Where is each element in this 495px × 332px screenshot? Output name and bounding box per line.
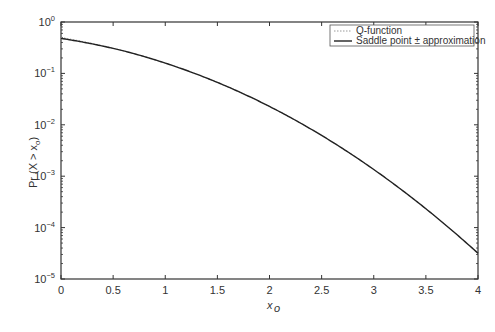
x-axis-label: x o <box>266 299 280 314</box>
x-tick-label: 2 <box>266 284 272 296</box>
legend-saddle-point-label: Saddle point ± approximation <box>356 35 485 46</box>
y-tick-label: 10−4 <box>34 220 55 234</box>
data-series <box>61 37 478 253</box>
x-axis-label-sub: o <box>274 302 280 314</box>
y-axis-ticks: 10010−110−210−310−410−5 <box>34 14 478 285</box>
y-tick-label: 10−5 <box>34 271 55 285</box>
saddle-point-line <box>61 38 478 253</box>
x-tick-label: 1 <box>162 284 168 296</box>
y-tick-label: 10−2 <box>34 117 55 131</box>
y-tick-label: 100 <box>39 14 55 28</box>
x-tick-label: 3.5 <box>418 284 433 296</box>
plot-area-border <box>61 22 478 279</box>
x-tick-label: 4 <box>475 284 481 296</box>
y-tick-label: 10−1 <box>34 65 55 79</box>
chart: 10010−110−210−310−410−5 00.511.522.533.5… <box>0 0 495 332</box>
x-tick-label: 0 <box>58 284 64 296</box>
x-axis-label-main: x <box>266 299 273 311</box>
q-function-line <box>61 37 478 253</box>
x-tick-label: 1.5 <box>210 284 225 296</box>
x-tick-label: 2.5 <box>314 284 329 296</box>
x-tick-label: 3 <box>371 284 377 296</box>
legend: Q-function Saddle point ± approximation <box>330 25 485 46</box>
plot-frame <box>61 22 478 279</box>
x-tick-label: 0.5 <box>105 284 120 296</box>
x-axis-ticks: 00.511.522.533.54 <box>58 22 481 296</box>
